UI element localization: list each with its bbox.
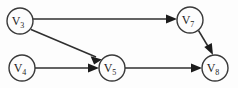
arrowhead-v7-v8 [204, 43, 213, 55]
node-label-v8-subscript: 8 [215, 67, 219, 76]
node-label-v7-subscript: 7 [190, 19, 194, 28]
node-v5[interactable]: V5 [99, 55, 125, 81]
arrowhead-v3-v7 [166, 15, 177, 24]
node-label-v7-base: V [182, 13, 191, 27]
node-label-v8-base: V [207, 61, 216, 75]
node-label-v3-subscript: 3 [20, 20, 24, 29]
edge-v3-to-v7 [33, 15, 177, 24]
arrowhead-v5-v8 [191, 64, 202, 73]
graph-canvas: V3 V7 V4 V5 [0, 0, 238, 88]
node-v7[interactable]: V7 [177, 7, 203, 33]
arrowhead-v4-v5 [88, 64, 99, 73]
edge-line-v3-v5 [31, 30, 96, 58]
edge-v3-to-v5 [31, 30, 102, 65]
node-label-v4-subscript: 4 [22, 67, 26, 76]
edge-v7-to-v8 [199, 31, 214, 56]
edge-line-v7-v8 [199, 31, 210, 49]
edge-v5-to-v8 [125, 64, 202, 73]
node-label-v5-subscript: 5 [112, 67, 116, 76]
node-v3[interactable]: V3 [7, 8, 33, 34]
directed-graph-figure: V3 V7 V4 V5 [0, 0, 238, 88]
edge-v4-to-v5 [35, 64, 99, 73]
node-v4[interactable]: V4 [9, 55, 35, 81]
node-label-v3-base: V [12, 14, 21, 28]
node-v8[interactable]: V8 [202, 55, 228, 81]
node-label-v5-base: V [104, 61, 113, 75]
node-label-v4-base: V [14, 61, 23, 75]
